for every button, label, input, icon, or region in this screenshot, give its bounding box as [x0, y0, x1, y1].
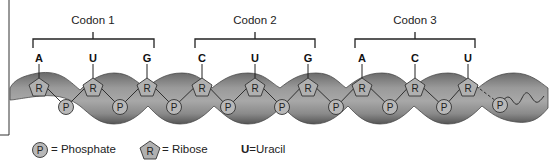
- svg-text:P: P: [441, 102, 448, 113]
- svg-text:P: P: [171, 102, 178, 113]
- svg-text:P: P: [117, 102, 124, 113]
- svg-text:R: R: [304, 83, 311, 94]
- legend-phosphate-text: = Phosphate: [51, 143, 116, 155]
- svg-text:R: R: [251, 83, 258, 94]
- svg-text:R: R: [143, 83, 150, 94]
- legend-ribose-text: = Ribose: [162, 143, 208, 155]
- base-letter: C: [195, 52, 209, 64]
- base-letter: U: [86, 52, 100, 64]
- svg-text:R: R: [146, 146, 153, 157]
- svg-text:P: P: [333, 102, 340, 113]
- base-letter: G: [140, 52, 154, 64]
- svg-text:R: R: [464, 83, 471, 94]
- ribose-label: R: [35, 83, 42, 94]
- base-letter: U: [248, 52, 262, 64]
- svg-text:P: P: [497, 100, 504, 111]
- legend-uracil-text: =Uracil: [249, 143, 285, 155]
- codon-2-label: Codon 2: [215, 14, 295, 26]
- svg-text:R: R: [358, 83, 365, 94]
- svg-text:P: P: [387, 102, 394, 113]
- svg-text:R: R: [411, 83, 418, 94]
- svg-text:P: P: [279, 102, 286, 113]
- codon-3-label: Codon 3: [375, 14, 455, 26]
- svg-text:R: R: [89, 83, 96, 94]
- base-letter: C: [408, 52, 422, 64]
- base-letter: U: [461, 52, 475, 64]
- legend-uracil-symbol: U: [241, 143, 249, 155]
- codon-brackets: [33, 32, 475, 48]
- legend-ribose: = Ribose: [162, 143, 208, 155]
- svg-text:P: P: [225, 102, 232, 113]
- frame-border: [0, 0, 9, 135]
- legend-uracil: U=Uracil: [241, 143, 285, 155]
- base-letter: A: [355, 52, 369, 64]
- svg-text:R: R: [198, 83, 205, 94]
- codon-1-label: Codon 1: [53, 14, 133, 26]
- legend-phosphate: = Phosphate: [51, 143, 116, 155]
- base-letter: A: [32, 52, 46, 64]
- svg-text:P: P: [37, 145, 44, 156]
- base-letter: G: [301, 52, 315, 64]
- phosphate-label: P: [63, 102, 70, 113]
